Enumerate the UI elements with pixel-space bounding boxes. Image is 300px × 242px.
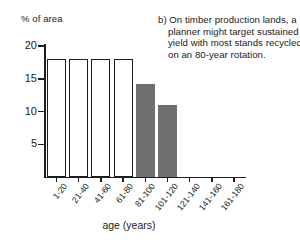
x-tick-mark bbox=[145, 178, 146, 182]
bar-1-20 bbox=[47, 59, 66, 177]
figure-panel-b: % of area 5101520 1-2021-4041-6061-8081-… bbox=[0, 0, 300, 242]
x-tick-mark bbox=[167, 178, 168, 182]
bar-21-40 bbox=[69, 59, 88, 177]
bar-101-120 bbox=[158, 105, 177, 177]
y-tick-mark bbox=[38, 111, 45, 113]
x-tick-mark bbox=[56, 178, 57, 182]
x-tick-label: 1-20 bbox=[51, 182, 69, 201]
x-tick-mark bbox=[211, 178, 212, 182]
bar-81-100 bbox=[136, 84, 155, 177]
y-tick-label: 5 bbox=[7, 138, 37, 149]
y-tick-label: 10 bbox=[7, 106, 37, 117]
x-tick-mark bbox=[100, 178, 101, 182]
y-tick-mark bbox=[38, 78, 45, 80]
bar-41-60 bbox=[91, 59, 110, 177]
x-tick-label: 21-40 bbox=[70, 182, 91, 205]
x-tick-mark bbox=[233, 178, 234, 182]
panel-caption: b) On timber production lands, a planner… bbox=[158, 14, 300, 60]
y-tick-label: 20 bbox=[7, 40, 37, 51]
x-tick-mark bbox=[122, 178, 123, 182]
x-tick-label: 41-60 bbox=[92, 182, 113, 205]
x-tick-mark bbox=[78, 178, 79, 182]
x-tick-mark bbox=[189, 178, 190, 182]
y-tick-mark bbox=[38, 144, 45, 146]
x-axis-title: age (years) bbox=[0, 219, 258, 231]
y-tick-label: 15 bbox=[7, 73, 37, 84]
bar-61-80 bbox=[114, 59, 133, 177]
y-tick-mark bbox=[38, 45, 45, 47]
